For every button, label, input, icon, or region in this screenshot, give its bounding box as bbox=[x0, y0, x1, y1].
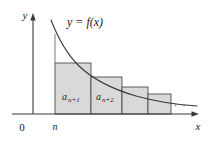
bar-label-2-subscript: n+2 bbox=[102, 96, 114, 104]
bar-label-2-base: a bbox=[96, 91, 101, 102]
x-axis-arrowhead bbox=[192, 111, 200, 116]
y-axis-arrowhead bbox=[30, 13, 35, 21]
bar-group bbox=[55, 63, 171, 114]
curve-label: y = f(x) bbox=[66, 15, 103, 29]
bar-rect-1 bbox=[55, 63, 91, 114]
bar-rect-3 bbox=[122, 87, 148, 114]
bar-label-1-base: a bbox=[62, 91, 67, 102]
y-axis-label: y bbox=[22, 9, 28, 21]
x-tick-label-n: n bbox=[53, 121, 58, 132]
x-axis-label: x bbox=[195, 120, 201, 132]
ellipsis-label: . . . bbox=[174, 96, 196, 108]
origin-label: 0 bbox=[19, 121, 25, 133]
figure-canvas: y x 0 n y = f(x) a n+1 a n+2 . . . bbox=[0, 0, 212, 144]
integral-test-figure: y x 0 n y = f(x) a n+1 a n+2 . . . bbox=[0, 0, 212, 144]
bar-label-1-subscript: n+1 bbox=[68, 96, 80, 104]
bar-rect-4 bbox=[148, 94, 171, 114]
